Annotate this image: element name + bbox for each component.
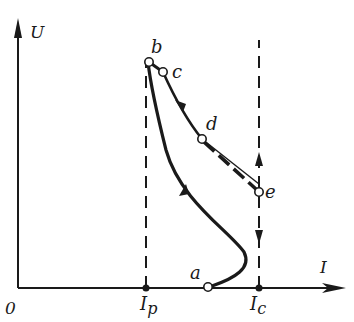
ic-tick-dot bbox=[256, 285, 263, 292]
point-e bbox=[255, 188, 263, 196]
label-a: a bbox=[190, 262, 201, 283]
y-axis bbox=[14, 18, 22, 288]
point-c bbox=[159, 68, 167, 76]
label-d: d bbox=[206, 113, 218, 134]
y-axis-label: U bbox=[30, 22, 45, 42]
origin-label: 0 bbox=[5, 298, 16, 318]
label-e: e bbox=[265, 181, 276, 202]
ip-label: Ip bbox=[139, 293, 157, 318]
label-c: c bbox=[172, 61, 182, 82]
label-b: b bbox=[151, 36, 163, 57]
curve-d-to-e-dashed bbox=[204, 142, 257, 190]
point-d bbox=[198, 135, 206, 143]
point-a bbox=[204, 283, 212, 291]
down-arrow-icon bbox=[255, 230, 263, 244]
ip-tick-dot bbox=[143, 285, 150, 292]
y-axis-arrow-icon bbox=[14, 18, 22, 38]
ic-label: Ic bbox=[249, 293, 266, 318]
x-axis-label: I bbox=[319, 257, 327, 277]
point-b bbox=[145, 58, 153, 66]
up-arrow-icon bbox=[255, 152, 263, 166]
diagram-canvas: U I 0 a b c d e Ip Ic bbox=[0, 0, 354, 322]
x-axis bbox=[18, 283, 346, 293]
curve-c-d-arrow-icon bbox=[175, 100, 186, 112]
curve-a-to-b bbox=[148, 62, 246, 286]
